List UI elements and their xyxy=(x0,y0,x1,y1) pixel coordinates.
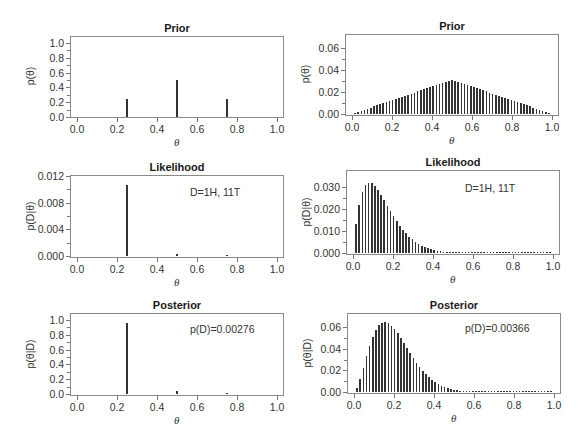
bar xyxy=(389,101,391,114)
bar xyxy=(472,391,474,392)
bar xyxy=(431,380,433,392)
x-tick-mark xyxy=(77,396,78,400)
y-tick-label: 0.00 xyxy=(305,386,341,398)
bar xyxy=(378,325,380,392)
y-minor-tick xyxy=(342,81,345,82)
x-tick-label: 0.0 xyxy=(339,399,369,411)
bar xyxy=(391,326,393,392)
x-tick-mark xyxy=(513,255,514,259)
bar xyxy=(506,391,508,392)
bar xyxy=(387,206,389,253)
bar xyxy=(367,109,369,114)
chart-title: Prior xyxy=(345,20,559,32)
y-minor-tick xyxy=(67,243,70,244)
y-tick-mark xyxy=(66,203,70,204)
y-tick-label: 0.00 xyxy=(303,108,339,120)
bar xyxy=(414,93,416,114)
bar xyxy=(444,387,446,392)
bar xyxy=(522,391,524,392)
bar xyxy=(126,99,128,118)
bar xyxy=(513,391,515,392)
bar xyxy=(433,250,435,253)
bar xyxy=(508,252,510,253)
x-tick-mark xyxy=(474,394,475,398)
bar xyxy=(500,391,502,392)
x-tick-mark xyxy=(197,258,198,262)
bar xyxy=(176,80,178,117)
bar xyxy=(432,86,434,114)
bar xyxy=(126,323,128,394)
bar xyxy=(401,97,403,114)
x-tick-label: 1.0 xyxy=(262,401,292,413)
y-tick-mark xyxy=(66,394,70,395)
bar xyxy=(370,108,372,114)
x-tick-mark xyxy=(157,258,158,262)
bar xyxy=(362,192,364,253)
chart-title: Likelihood xyxy=(70,161,284,173)
bar xyxy=(531,391,533,392)
bar xyxy=(423,89,425,114)
y-minor-tick xyxy=(67,80,70,81)
bar xyxy=(371,183,373,253)
x-tick-mark xyxy=(472,116,473,120)
y-tick-label: 0.012 xyxy=(28,170,64,182)
bar xyxy=(392,100,394,114)
y-minor-tick xyxy=(342,59,345,60)
bar xyxy=(470,86,472,114)
y-minor-tick xyxy=(67,342,70,343)
chart-title: Likelihood xyxy=(346,156,560,168)
bar xyxy=(364,110,366,114)
bar xyxy=(478,391,480,392)
x-axis-label: θ xyxy=(174,136,179,148)
bar xyxy=(546,252,548,253)
y-tick-mark xyxy=(66,176,70,177)
bar xyxy=(496,252,498,253)
bar xyxy=(408,237,410,253)
annotation: p(D)=0.00366 xyxy=(465,322,530,334)
bar xyxy=(420,90,422,114)
bar xyxy=(481,391,483,392)
bar xyxy=(395,99,397,114)
bar xyxy=(422,371,424,392)
bar xyxy=(488,391,490,392)
y-minor-tick xyxy=(344,381,347,382)
bar xyxy=(409,353,411,392)
y-minor-tick xyxy=(67,50,70,51)
x-tick-label: 0.4 xyxy=(419,399,449,411)
bar xyxy=(473,87,475,114)
bar xyxy=(359,379,361,392)
bar xyxy=(425,374,427,392)
bar xyxy=(530,252,532,253)
bar xyxy=(503,391,505,392)
bar xyxy=(527,252,529,253)
x-tick-mark xyxy=(352,116,353,120)
bar xyxy=(520,103,522,114)
x-tick-mark xyxy=(277,258,278,262)
x-tick-mark xyxy=(117,258,118,262)
bar xyxy=(491,391,493,392)
x-tick-mark xyxy=(512,116,513,120)
x-tick-label: 1.0 xyxy=(539,399,569,411)
bar xyxy=(461,83,463,114)
bar xyxy=(446,252,448,253)
x-tick-mark xyxy=(237,396,238,400)
y-tick-mark xyxy=(342,231,346,232)
x-tick-mark xyxy=(434,394,435,398)
y-tick-mark xyxy=(341,48,345,49)
chart-title: Posterior xyxy=(70,299,284,311)
bar xyxy=(400,338,402,392)
x-tick-label: 0.8 xyxy=(222,263,252,275)
bar xyxy=(512,252,514,253)
bar xyxy=(381,323,383,392)
x-tick-label: 0.2 xyxy=(102,263,132,275)
bar xyxy=(443,252,445,253)
y-minor-tick xyxy=(67,327,70,328)
bar xyxy=(428,377,430,392)
plot-area xyxy=(70,175,284,258)
bar xyxy=(441,386,443,392)
bar xyxy=(479,89,481,114)
bar xyxy=(452,252,454,253)
bar xyxy=(176,391,178,394)
x-tick-mark xyxy=(77,118,78,122)
bar xyxy=(467,85,469,114)
